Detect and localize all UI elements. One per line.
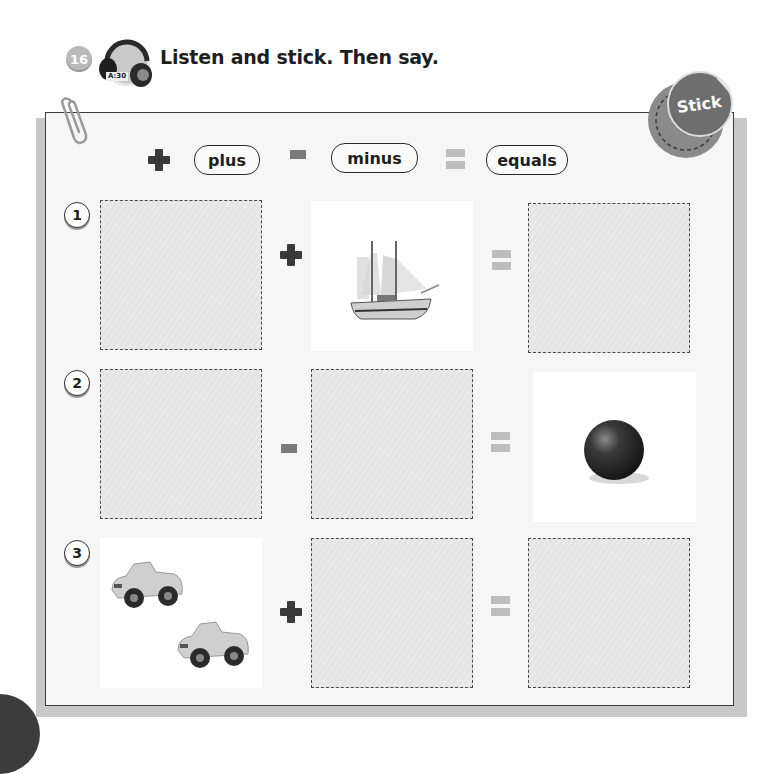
row-number-2: 2	[64, 370, 90, 396]
headphones-icon[interactable]	[97, 37, 155, 89]
legend-equals-label: equals	[486, 145, 568, 175]
equals-icon	[491, 432, 510, 452]
sticker-slot[interactable]	[528, 538, 690, 688]
sticker-slot[interactable]	[311, 369, 473, 519]
activity-number-badge: 16	[66, 46, 92, 72]
sticker-slot[interactable]	[528, 203, 690, 353]
ship-picture	[311, 201, 473, 351]
ball-picture	[533, 372, 696, 522]
plus-icon	[280, 244, 302, 266]
row-number-1: 1	[64, 202, 90, 228]
equals-icon	[492, 250, 511, 270]
legend-minus-label: minus	[331, 143, 418, 173]
row-number-3: 3	[64, 540, 90, 566]
plus-icon	[280, 601, 302, 623]
sticker-slot[interactable]	[100, 369, 262, 519]
sailing-ship-icon	[311, 201, 473, 351]
cars-picture	[100, 538, 262, 688]
legend-plus-label: plus	[194, 145, 260, 175]
sticker-slot[interactable]	[311, 538, 473, 688]
page-corner-decoration	[0, 694, 40, 774]
instruction-heading: Listen and stick. Then say.	[160, 46, 439, 68]
legend-plus-icon	[148, 149, 170, 171]
stick-badge: Stick	[644, 64, 740, 162]
minus-icon	[281, 444, 297, 453]
paperclip-icon	[58, 92, 92, 148]
equals-icon	[491, 596, 510, 616]
audio-track-label: A:30	[106, 72, 128, 81]
legend-minus-icon	[290, 150, 306, 159]
legend-equals-icon	[446, 149, 465, 169]
sticker-slot[interactable]	[100, 200, 262, 350]
toy-cars-icon	[100, 538, 262, 688]
ball-icon	[533, 372, 696, 522]
